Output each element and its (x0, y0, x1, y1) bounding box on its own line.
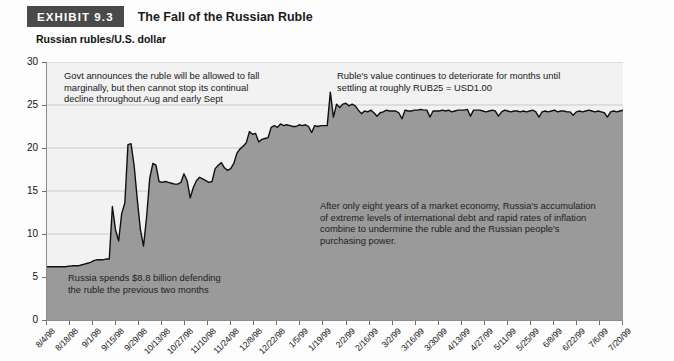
x-tick-mark (115, 321, 116, 325)
x-tick-label: 3/16/99 (399, 326, 426, 353)
x-tick-mark (322, 321, 323, 325)
x-tick-mark (599, 321, 600, 325)
x-tick-mark (161, 321, 162, 325)
x-tick-mark (138, 321, 139, 325)
x-tick-label: 4/13/99 (445, 326, 472, 353)
exhibit-title: The Fall of the Russian Ruble (138, 6, 313, 27)
annotation-govt-announcement: Govt announces the ruble will be allowed… (64, 70, 324, 105)
x-tick-label: 8/18/98 (53, 326, 80, 353)
y-tick-label: 15 (4, 186, 38, 196)
y-axis-title: Russian rubles/U.S. dollar (36, 33, 166, 45)
x-tick-mark (392, 321, 393, 325)
x-tick-mark (253, 321, 254, 325)
x-tick-label: 7/20/99 (606, 326, 633, 353)
x-tick-mark (92, 321, 93, 325)
annotation-defending-ruble: Russia spends $8.8 billion defending the… (68, 272, 308, 295)
y-tick-label: 5 (4, 272, 38, 282)
x-tick-mark (207, 321, 208, 325)
x-tick-mark (276, 321, 277, 325)
x-tick-label: 9/15/98 (99, 326, 126, 353)
x-tick-mark (184, 321, 185, 325)
y-tick-label: 25 (4, 100, 38, 110)
x-tick-label: 5/11/99 (491, 326, 517, 352)
x-tick-mark (230, 321, 231, 325)
x-tick-mark (461, 321, 462, 325)
x-tick-mark (69, 321, 70, 325)
x-tick-mark (46, 321, 47, 325)
x-axis-line (46, 320, 623, 321)
y-tick-label: 10 (4, 229, 38, 239)
x-tick-mark (299, 321, 300, 325)
x-tick-label: 3/30/99 (422, 326, 449, 353)
x-tick-label: 6/22/99 (560, 326, 587, 353)
x-tick-mark (415, 321, 416, 325)
y-tick-label: 20 (4, 143, 38, 153)
annotation-market-economy: After only eight years of a market econo… (320, 200, 620, 246)
annotation-ruble-deterioration: Ruble's value continues to deteriorate f… (337, 70, 627, 93)
exhibit-header: EXHIBIT 9.3 The Fall of the Russian Rubl… (27, 6, 313, 27)
x-tick-mark (346, 321, 347, 325)
x-tick-mark (530, 321, 531, 325)
x-tick-mark (484, 321, 485, 325)
x-tick-mark (576, 321, 577, 325)
exhibit-number-badge: EXHIBIT 9.3 (27, 6, 124, 27)
x-tick-label: 4/27/99 (468, 326, 495, 353)
y-tick-label: 30 (4, 57, 38, 67)
x-tick-label: 2/16/99 (353, 326, 380, 353)
x-tick-mark (369, 321, 370, 325)
x-tick-mark (438, 321, 439, 325)
x-tick-label: 1/19/99 (307, 326, 334, 353)
y-tick-label: 0 (4, 315, 38, 325)
x-tick-label: 5/25/99 (514, 326, 541, 353)
x-tick-mark (622, 321, 623, 325)
x-tick-mark (507, 321, 508, 325)
exhibit-chart: EXHIBIT 9.3 The Fall of the Russian Rubl… (0, 0, 674, 361)
x-tick-mark (553, 321, 554, 325)
